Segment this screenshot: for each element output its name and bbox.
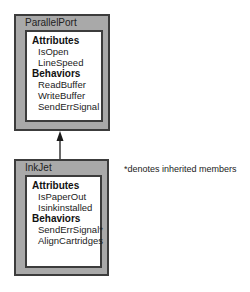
class-box-inkjet: InkJet Attributes IsPaperOut Isinkinstal… bbox=[14, 159, 109, 276]
class-name: InkJet bbox=[25, 162, 52, 173]
behavior-item: SendErrSignal* bbox=[32, 224, 100, 235]
behavior-item: AlignCartridges bbox=[32, 235, 100, 246]
section-heading-behaviors: Behaviors bbox=[32, 213, 100, 224]
attribute-item: IsPaperOut bbox=[32, 191, 100, 202]
inherited-members-note: *denotes inherited members bbox=[124, 164, 237, 174]
section-heading-attributes: Attributes bbox=[32, 180, 100, 191]
class-members-panel: Attributes IsPaperOut Isinkinstalled Beh… bbox=[25, 175, 102, 268]
attribute-item: Isinkinstalled bbox=[32, 202, 100, 213]
